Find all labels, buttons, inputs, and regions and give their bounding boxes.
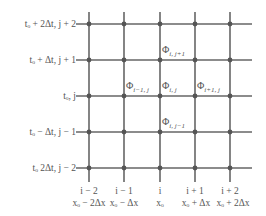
col-index-i-plus-1: i + 1 [186,186,204,196]
row-label-j: tₒ, j [63,91,76,101]
col-index-i: i [159,186,162,196]
col-coord-i-plus-2: xₒ + 2Δx [216,198,249,208]
col-index-i-minus-2: i − 2 [80,186,98,196]
phi-label-i-jminus1: Φi, j−1 [162,116,185,130]
row-label-j-plus-1: tₒ + Δt, j + 1 [30,55,76,65]
col-coord-i-minus-2: xₒ − 2Δx [72,198,105,208]
finite-difference-grid [0,0,266,216]
col-coord-i-minus-1: xₒ − Δx [110,198,138,208]
col-index-i-minus-1: i − 1 [115,186,133,196]
col-coord-i: xₒ [156,198,164,208]
phi-label-i-j: Φi, j [162,80,177,94]
row-label-j-minus-1: tₒ − Δt, j − 1 [30,127,76,137]
row-label-j-plus-2: tₒ + 2Δt, j + 2 [25,19,76,29]
row-label-j-minus-2: tₒ 2Δt, j − 2 [33,163,77,173]
phi-label-iplus1-j: Φi+1, j [197,80,220,94]
col-coord-i-plus-1: xₒ + Δx [182,198,210,208]
col-index-i-plus-2: i + 2 [221,186,239,196]
phi-label-i-jplus1: Φi, j+1 [162,44,185,58]
phi-label-iminus1-j: Φi−1, j [126,80,149,94]
